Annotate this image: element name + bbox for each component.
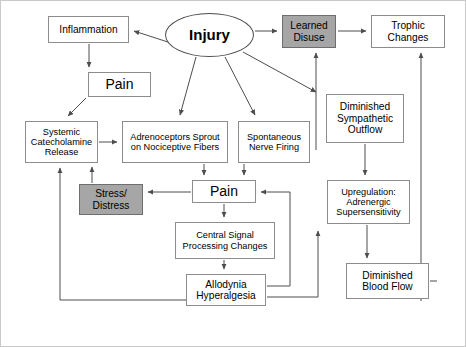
node-upregulation-adrenergic-supersensitivity[interactable]: Upregulation: Adrenergic Supersensitivit… bbox=[327, 180, 410, 224]
node-adrenoceptors-sprout-label: Adrenoceptors Sprout on Nociceptive Fibe… bbox=[130, 132, 219, 153]
node-systemic-catecholamine-release-label: Systemic Catecholamine Release bbox=[31, 127, 92, 158]
node-systemic-catecholamine-release[interactable]: Systemic Catecholamine Release bbox=[25, 121, 98, 163]
node-diminished-blood-flow[interactable]: Diminished Blood Flow bbox=[346, 263, 429, 299]
node-pain-top-label: Pain bbox=[105, 77, 133, 93]
node-learned-disuse[interactable]: Learned Disuse bbox=[282, 15, 336, 48]
node-diminished-sympathetic-outflow[interactable]: Diminished Sympathetic Outflow bbox=[326, 94, 404, 143]
node-adrenoceptors-sprout[interactable]: Adrenoceptors Sprout on Nociceptive Fibe… bbox=[122, 121, 228, 163]
node-diminished-sympathetic-outflow-label: Diminished Sympathetic Outflow bbox=[337, 101, 393, 135]
edge-pain-top-to-systemic bbox=[68, 98, 86, 116]
node-diminished-blood-flow-label: Diminished Blood Flow bbox=[362, 270, 412, 293]
node-stress-distress-label: Stress/ Distress bbox=[93, 188, 130, 211]
node-trophic-changes-label: Trophic Changes bbox=[388, 20, 429, 43]
edge-injury-to-adrenoceptors bbox=[180, 57, 196, 115]
node-injury-label: Injury bbox=[189, 27, 230, 44]
node-allodynia-hyperalgesia[interactable]: Allodynia Hyperalgesia bbox=[186, 274, 266, 306]
node-stress-distress[interactable]: Stress/ Distress bbox=[79, 184, 143, 215]
node-inflammation[interactable]: Inflammation bbox=[48, 16, 129, 43]
node-central-signal-processing-changes[interactable]: Central Signal Processing Changes bbox=[175, 222, 275, 259]
edge-injury-to-spontaneous bbox=[225, 57, 255, 115]
node-allodynia-hyperalgesia-label: Allodynia Hyperalgesia bbox=[196, 279, 255, 302]
node-spontaneous-nerve-firing[interactable]: Spontaneous Nerve Firing bbox=[238, 121, 310, 163]
node-central-signal-processing-changes-label: Central Signal Processing Changes bbox=[183, 230, 268, 251]
node-injury[interactable]: Injury bbox=[165, 13, 254, 57]
edge-injury-to-right-riser bbox=[243, 52, 316, 92]
node-trophic-changes[interactable]: Trophic Changes bbox=[371, 15, 445, 48]
flowchart-canvas: Injury Inflammation Learned Disuse Troph… bbox=[0, 0, 466, 347]
node-inflammation-label: Inflammation bbox=[59, 24, 117, 35]
node-pain-mid-label: Pain bbox=[210, 184, 238, 200]
node-spontaneous-nerve-firing-label: Spontaneous Nerve Firing bbox=[247, 132, 301, 153]
node-upregulation-adrenergic-supersensitivity-label: Upregulation: Adrenergic Supersensitivit… bbox=[336, 187, 400, 218]
node-learned-disuse-label: Learned Disuse bbox=[290, 20, 327, 43]
node-pain-top[interactable]: Pain bbox=[88, 72, 151, 97]
node-pain-mid[interactable]: Pain bbox=[192, 180, 256, 203]
